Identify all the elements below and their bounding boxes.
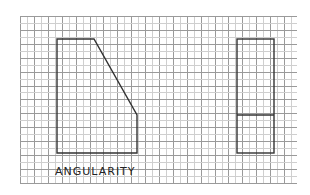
diagram-title-label: ANGULARITY bbox=[55, 165, 136, 178]
angularity-diagram bbox=[0, 0, 310, 195]
grid-background bbox=[20, 16, 297, 184]
